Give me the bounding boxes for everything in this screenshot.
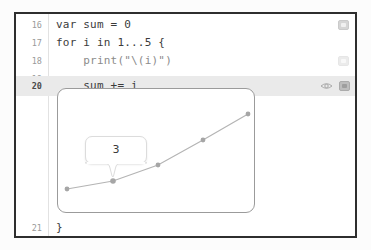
line-number-20: 20: [16, 76, 42, 94]
badge-inner: [341, 59, 346, 63]
editor-window: 16 var sum = 0 17 for i in 1...5 { 18 pr…: [14, 12, 357, 238]
value-callout[interactable]: 3: [85, 136, 147, 170]
chart-data-point[interactable]: [156, 163, 161, 168]
chart-data-point[interactable]: [110, 178, 116, 184]
value-history-badge-icon[interactable]: [338, 56, 349, 66]
code-line-18[interactable]: 18 print("\(i)"): [16, 52, 355, 70]
code-line-17[interactable]: 17 for i in 1...5 {: [16, 34, 355, 52]
code-line-21[interactable]: 21 }: [16, 219, 355, 237]
value-graph-panel[interactable]: 3: [57, 88, 255, 213]
value-history-badge-icon[interactable]: [338, 20, 349, 30]
value-history-badge-icon[interactable]: [339, 81, 350, 91]
callout-value: 3: [85, 136, 147, 164]
quicklook-eye-icon[interactable]: [320, 81, 333, 91]
chart-data-point[interactable]: [201, 138, 206, 143]
line-number-21: 21: [16, 219, 42, 237]
code-text-18: print("\(i)"): [56, 52, 172, 70]
line-number-16: 16: [16, 16, 42, 34]
badge-inner: [341, 23, 346, 27]
chart-data-point[interactable]: [65, 187, 70, 192]
callout-tail-icon: [85, 162, 147, 178]
line-number-17: 17: [16, 34, 42, 52]
code-text-16: var sum = 0: [56, 16, 131, 34]
chart-data-point[interactable]: [246, 112, 251, 117]
line-number-18: 18: [16, 52, 42, 70]
badge-inner: [342, 84, 347, 88]
code-line-16[interactable]: 16 var sum = 0: [16, 16, 355, 34]
code-text-21: }: [56, 219, 63, 237]
playground-screenshot: 16 var sum = 0 17 for i in 1...5 { 18 pr…: [0, 0, 371, 250]
code-text-17: for i in 1...5 {: [56, 34, 165, 52]
